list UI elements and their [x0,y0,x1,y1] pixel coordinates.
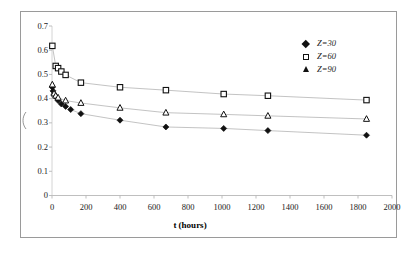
square-marker-icon [299,51,313,62]
legend-item-label: Z=30 [313,38,336,49]
y-tick-label: 0.7 [22,22,48,31]
chart-legend: Z=30Z=60Z=90 [299,38,381,77]
diamond-marker-icon [299,38,313,49]
y-tick-label: 0 [22,191,48,200]
x-tick-label: 1200 [240,203,272,212]
legend-item: Z=90 [299,64,381,75]
legend-item: Z=60 [299,51,381,62]
chart-figure: 00.10.20.30.40.50.60.7 02004006008001000… [0,0,420,255]
x-tick-label: 800 [172,203,204,212]
y-tick-label: 0.1 [22,167,48,176]
x-tick-label: 400 [104,203,136,212]
x-tick-label: 600 [138,203,170,212]
y-tick-label: 0.5 [22,70,48,79]
x-tick-label: 1600 [308,203,340,212]
x-tick-label: 1800 [342,203,374,212]
triangle-marker-icon [299,64,313,75]
x-tick-label: 0 [36,203,68,212]
legend-item-label: Z=90 [313,64,336,75]
x-axis-title: t (hours) [0,220,400,230]
y-tick-label: 0.6 [22,46,48,55]
y-tick-label: 0.2 [22,143,48,152]
x-tick-label: 1000 [206,203,238,212]
x-tick-label: 200 [70,203,102,212]
legend-item: Z=30 [299,38,381,49]
y-tick-label: 0.4 [22,94,48,103]
y-tick-label: 0.3 [22,118,48,127]
legend-item-label: Z=60 [313,51,336,62]
x-tick-label: 1400 [274,203,306,212]
x-tick-label: 2000 [376,203,408,212]
